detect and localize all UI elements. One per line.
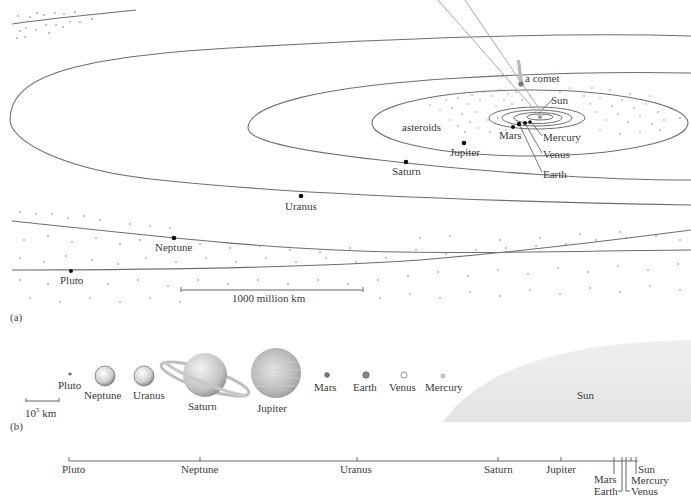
label-saturn: Saturn [392,165,421,177]
distance-label-earth: Earth [594,485,618,497]
orbits-drawing [0,0,691,330]
label-sun: Sun [551,94,568,106]
label-earth: Earth [543,168,567,180]
planet-jupiter-dot [462,141,467,146]
venus-disc [401,372,407,378]
planet-earth-dot [517,122,521,126]
kuiper-belt-dots-bottom [19,211,681,303]
orbit-neptune [12,221,691,253]
distance-label-venus: Venus [631,485,658,497]
distance-label-jupiter: Jupiter [546,463,576,475]
earth-disc [363,372,369,378]
saturn-disc [183,353,227,397]
mercury-disc [441,374,445,378]
planet-pluto-dot [69,269,73,273]
planet-venus-dot [523,121,527,125]
panel-b-tag: (b) [10,420,23,432]
saturn-ring [158,355,252,402]
sun-disc [443,340,691,422]
planet-saturn-dot [404,160,409,165]
scale-bar-a-label: 1000 million km [232,292,305,304]
orbit-uranus [10,35,691,205]
label-jupiter: Jupiter [450,146,480,158]
neptune-disc [95,366,115,386]
label-pluto: Pluto [60,274,83,286]
label-neptune: Neptune [155,241,192,253]
distance-label-saturn: Saturn [484,463,513,475]
size-label-sun: Sun [577,389,594,401]
distance-label-uranus: Uranus [340,463,372,475]
jupiter-disc [251,348,301,398]
size-label-saturn: Saturn [188,400,217,412]
label-mercury: Mercury [543,131,581,143]
leader-earth [520,126,542,172]
distance-label-neptune: Neptune [181,463,218,475]
distance-label-pluto: Pluto [62,463,85,475]
planet-mercury-dot [528,120,532,124]
size-label-neptune: Neptune [84,389,121,401]
uranus-disc [134,366,154,386]
comet-head [518,81,523,86]
jupiter-bands [253,362,300,386]
label-asteroids: asteroids [402,121,441,133]
size-label-earth: Earth [353,381,377,393]
panel-a-tag: (a) [10,311,22,323]
pluto-size-dot [68,372,71,375]
label-mars: Mars [499,129,522,141]
label-comet: a comet [525,72,560,84]
scale-bar-b-label: 105 km [25,404,56,419]
orbit-saturn [248,73,691,180]
size-label-uranus: Uranus [133,389,165,401]
planet-uranus-dot [299,194,304,199]
label-venus: Venus [543,148,570,160]
distance-label-mars: Mars [594,473,617,485]
planet-neptune-dot [172,236,177,241]
mars-disc [325,373,330,378]
size-label-jupiter: Jupiter [257,402,287,414]
comet-tail [517,60,523,82]
size-label-pluto: Pluto [58,379,81,391]
scale-bar-b-base: 10 [25,407,36,419]
size-label-venus: Venus [389,381,416,393]
comet-orbit-line-1 [438,0,540,116]
size-label-mars: Mars [314,381,337,393]
orbit-pluto [12,230,691,270]
scale-bar-b-unit: km [40,407,57,419]
leader-mercury [532,123,542,136]
size-label-mercury: Mercury [425,381,463,393]
comet-orbit-line-2 [465,0,544,116]
label-uranus: Uranus [285,200,317,212]
